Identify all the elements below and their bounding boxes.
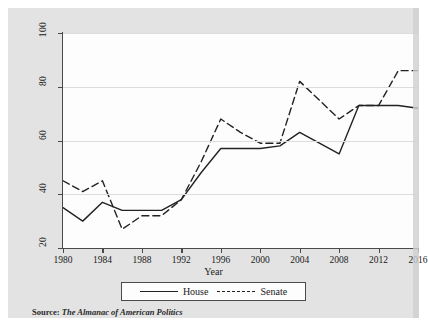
y-tick-60 bbox=[58, 141, 63, 142]
x-tick-1980 bbox=[63, 248, 64, 253]
series-line-house bbox=[63, 106, 418, 222]
legend-swatch-house bbox=[140, 291, 178, 292]
gridline-40 bbox=[63, 194, 418, 195]
chart-figure: 20406080100 1980198419881992199620002004… bbox=[8, 8, 419, 318]
y-tick-100 bbox=[58, 33, 63, 34]
y-tick-label-60: 60 bbox=[38, 130, 52, 140]
x-tick-2004 bbox=[300, 248, 301, 253]
x-tick-label-2016: 2016 bbox=[409, 255, 428, 265]
x-tick-label-2004: 2004 bbox=[290, 255, 309, 265]
x-tick-label-1984: 1984 bbox=[93, 255, 112, 265]
legend-label-house: House bbox=[183, 286, 209, 297]
x-tick-label-1980: 1980 bbox=[54, 255, 73, 265]
y-tick-label-80: 80 bbox=[38, 76, 52, 86]
x-tick-label-1996: 1996 bbox=[211, 255, 230, 265]
x-tick-2000 bbox=[260, 248, 261, 253]
plot-area bbox=[63, 33, 418, 248]
chart-legend: House Senate bbox=[121, 282, 306, 301]
x-tick-label-2000: 2000 bbox=[251, 255, 270, 265]
x-tick-2016 bbox=[418, 248, 419, 253]
x-tick-1996 bbox=[221, 248, 222, 253]
gridline-60 bbox=[63, 141, 418, 142]
x-tick-label-2012: 2012 bbox=[369, 255, 388, 265]
legend-item-senate: Senate bbox=[217, 286, 287, 297]
x-tick-label-2008: 2008 bbox=[330, 255, 349, 265]
x-tick-label-1988: 1988 bbox=[132, 255, 151, 265]
x-tick-1984 bbox=[102, 248, 103, 253]
x-axis bbox=[62, 248, 418, 249]
x-axis-label: Year bbox=[8, 266, 419, 277]
y-tick-label-100: 100 bbox=[38, 22, 52, 37]
gridline-80 bbox=[63, 87, 418, 88]
legend-swatch-senate bbox=[217, 291, 255, 292]
legend-item-house: House bbox=[140, 286, 209, 297]
source-label: Source: bbox=[32, 307, 60, 317]
source-value: The Almanac of American Politics bbox=[62, 307, 183, 317]
y-tick-label-20: 20 bbox=[38, 237, 52, 247]
series-line-senate bbox=[63, 71, 418, 230]
x-tick-2008 bbox=[339, 248, 340, 253]
y-tick-40 bbox=[58, 194, 63, 195]
x-tick-2012 bbox=[379, 248, 380, 253]
x-tick-1992 bbox=[181, 248, 182, 253]
source-note: Source: The Almanac of American Politics bbox=[32, 307, 183, 317]
legend-label-senate: Senate bbox=[260, 286, 287, 297]
gridline-100 bbox=[63, 33, 418, 34]
x-tick-label-1992: 1992 bbox=[172, 255, 191, 265]
y-tick-label-40: 40 bbox=[38, 183, 52, 193]
y-tick-80 bbox=[58, 87, 63, 88]
x-tick-1988 bbox=[142, 248, 143, 253]
